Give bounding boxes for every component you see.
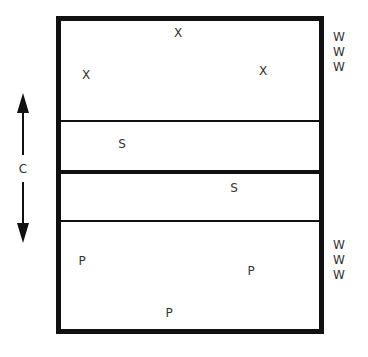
player-bottom-p1: P: [78, 255, 85, 267]
waiting-player: W: [332, 238, 346, 253]
arrow-label: C: [19, 163, 27, 175]
waiting-player: W: [332, 45, 346, 60]
movement-arrow-icon: [0, 0, 368, 357]
player-top-x2: X: [82, 69, 90, 81]
waiting-player: W: [332, 253, 346, 268]
setter-bottom: S: [230, 182, 238, 194]
player-top-x3: X: [259, 65, 267, 77]
waiting-group-top: W W W: [332, 30, 346, 75]
waiting-group-bottom: W W W: [332, 238, 346, 283]
player-top-x1: X: [174, 27, 182, 39]
waiting-player: W: [332, 268, 346, 283]
player-bottom-p3: P: [165, 307, 172, 319]
setter-top: S: [118, 138, 126, 150]
waiting-player: W: [332, 30, 346, 45]
player-bottom-p2: P: [247, 265, 254, 277]
waiting-player: W: [332, 60, 346, 75]
